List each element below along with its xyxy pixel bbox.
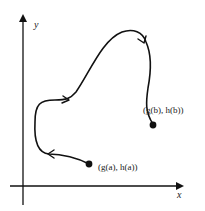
- y-axis-label: y: [33, 19, 39, 30]
- start-point-label: (g(a), h(a)): [98, 162, 137, 172]
- end-point-label: (g(b), h(b)): [143, 105, 183, 115]
- parametric-curve-diagram: y x (g(b), h(b)) (g(a), h(a)): [0, 0, 205, 211]
- direction-arrow-icon: [138, 36, 146, 43]
- x-axis-label: x: [176, 189, 182, 200]
- parametric-curve: [35, 30, 153, 164]
- end-point: [150, 122, 157, 129]
- start-point: [86, 161, 93, 168]
